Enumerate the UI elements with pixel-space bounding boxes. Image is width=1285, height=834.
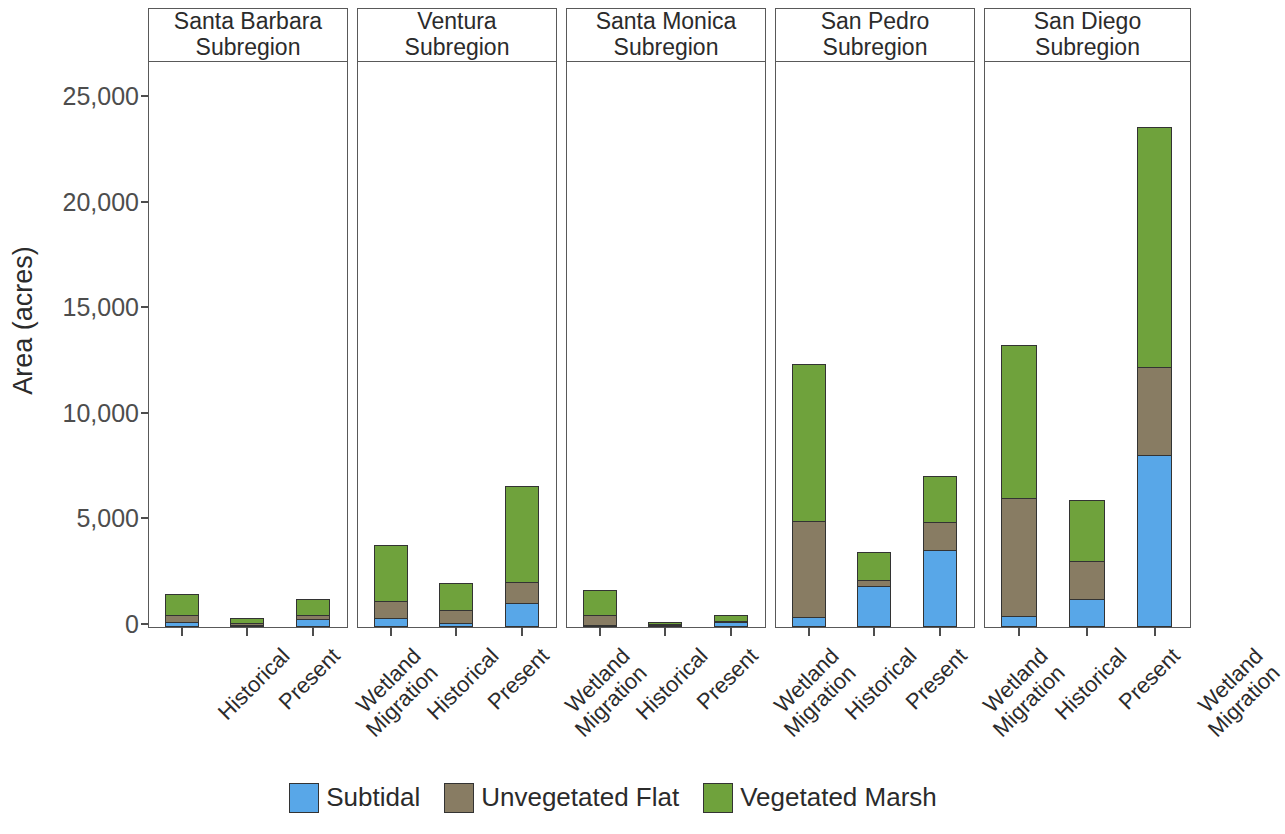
y-axis-tick-mark bbox=[141, 623, 148, 625]
bar-segment bbox=[1137, 367, 1172, 455]
y-axis-tick-mark bbox=[141, 517, 148, 519]
bar-segment bbox=[923, 476, 957, 522]
y-axis-title-text: Area (acres) bbox=[8, 246, 39, 395]
stacked-bar bbox=[374, 545, 408, 627]
bar-segment bbox=[1001, 345, 1036, 498]
facet-panel-title: Santa MonicaSubregion bbox=[566, 8, 766, 62]
legend-color-swatch bbox=[703, 783, 733, 813]
bar-segment bbox=[1069, 599, 1104, 627]
facet-panel: San PedroSubregionHistoricalPresentWetla… bbox=[775, 8, 975, 628]
x-axis-labels: HistoricalPresentWetlandMigration bbox=[776, 627, 974, 767]
y-axis: 05,00010,00015,00020,00025,000 bbox=[46, 0, 148, 700]
bar-segment bbox=[505, 582, 539, 603]
x-axis-tick-label: WetlandMigration bbox=[1187, 644, 1285, 742]
legend-item: Vegetated Marsh bbox=[703, 782, 937, 813]
bar-segment bbox=[165, 615, 199, 622]
legend-item-label: Vegetated Marsh bbox=[740, 782, 937, 813]
y-axis-tick-label: 0 bbox=[125, 610, 139, 639]
bar-segment bbox=[439, 610, 473, 623]
y-axis-tick-label: 20,000 bbox=[63, 187, 139, 216]
y-axis-tick-mark bbox=[141, 412, 148, 414]
legend-item-label: Unvegetated Flat bbox=[481, 782, 679, 813]
facet-plot-area: HistoricalPresentWetlandMigration bbox=[148, 62, 348, 628]
facet-panel-title-text: VenturaSubregion bbox=[405, 9, 510, 61]
legend-color-swatch bbox=[444, 783, 474, 813]
x-axis-labels: HistoricalPresentWetlandMigration bbox=[985, 627, 1190, 767]
facet-plot-area: HistoricalPresentWetlandMigration bbox=[566, 62, 766, 628]
bar-segment bbox=[1137, 455, 1172, 627]
bar-segment bbox=[1001, 616, 1036, 627]
stacked-bar bbox=[923, 476, 957, 627]
bar-segment bbox=[1069, 561, 1104, 599]
bars-container bbox=[985, 62, 1190, 627]
x-axis-tick-label: Historical bbox=[422, 644, 503, 725]
facet-panels: Santa BarbaraSubregionHistoricalPresentW… bbox=[148, 8, 1191, 628]
facet-panel-title-text: Santa MonicaSubregion bbox=[596, 9, 737, 61]
bar-segment bbox=[296, 619, 330, 627]
bar-segment bbox=[505, 486, 539, 582]
facet-panel-title-text: San PedroSubregion bbox=[821, 9, 930, 61]
x-axis-tick-label: Historical bbox=[213, 644, 294, 725]
facet-panel: San DiegoSubregionHistoricalPresentWetla… bbox=[984, 8, 1191, 628]
bar-segment bbox=[792, 521, 826, 617]
bar-segment bbox=[374, 601, 408, 618]
bar-segment bbox=[439, 583, 473, 610]
bar-segment bbox=[1069, 500, 1104, 561]
facet-panel-title: VenturaSubregion bbox=[357, 8, 557, 62]
bar-segment bbox=[165, 594, 199, 615]
facet-panel: Santa MonicaSubregionHistoricalPresentWe… bbox=[566, 8, 766, 628]
facet-panel: VenturaSubregionHistoricalPresentWetland… bbox=[357, 8, 557, 628]
stacked-bar bbox=[714, 615, 748, 627]
facet-panel-title-text: San DiegoSubregion bbox=[1034, 9, 1141, 61]
y-axis-tick-label: 10,000 bbox=[63, 398, 139, 427]
bars-container bbox=[149, 62, 347, 627]
bar-segment bbox=[583, 615, 617, 625]
stacked-bar bbox=[857, 552, 891, 627]
bar-segment bbox=[923, 550, 957, 627]
facet-panel-title: Santa BarbaraSubregion bbox=[148, 8, 348, 62]
stacked-bar bbox=[439, 583, 473, 627]
bar-segment bbox=[374, 618, 408, 627]
x-axis-labels: HistoricalPresentWetlandMigration bbox=[358, 627, 556, 767]
stacked-bar bbox=[1069, 500, 1104, 627]
stacked-bar bbox=[583, 590, 617, 627]
x-axis-labels: HistoricalPresentWetlandMigration bbox=[149, 627, 347, 767]
bar-segment bbox=[923, 522, 957, 550]
bar-segment bbox=[1001, 498, 1036, 616]
legend-item: Unvegetated Flat bbox=[444, 782, 679, 813]
legend-item-label: Subtidal bbox=[326, 782, 420, 813]
stacked-bar bbox=[505, 486, 539, 627]
bar-segment bbox=[1137, 127, 1172, 367]
facet-panel-title-text: Santa BarbaraSubregion bbox=[174, 9, 322, 61]
y-axis-tick-mark bbox=[141, 201, 148, 203]
bars-container bbox=[358, 62, 556, 627]
y-axis-tick-mark bbox=[141, 95, 148, 97]
bar-segment bbox=[857, 586, 891, 627]
x-axis-tick-label: Historical bbox=[631, 644, 712, 725]
facet-plot-area: HistoricalPresentWetlandMigration bbox=[775, 62, 975, 628]
stacked-bar bbox=[230, 618, 264, 627]
bar-segment bbox=[792, 617, 826, 627]
bar-segment bbox=[792, 364, 826, 521]
facet-panel-title: San PedroSubregion bbox=[775, 8, 975, 62]
stacked-bar bbox=[296, 599, 330, 627]
bar-segment bbox=[374, 545, 408, 601]
y-axis-tick-label: 15,000 bbox=[63, 293, 139, 322]
stacked-bar bbox=[165, 594, 199, 627]
bar-segment bbox=[296, 599, 330, 615]
x-axis-labels: HistoricalPresentWetlandMigration bbox=[567, 627, 765, 767]
stacked-bar bbox=[792, 364, 826, 627]
y-axis-tick-mark bbox=[141, 306, 148, 308]
legend-color-swatch bbox=[289, 783, 319, 813]
stacked-bar bbox=[1137, 127, 1172, 627]
facet-plot-area: HistoricalPresentWetlandMigration bbox=[357, 62, 557, 628]
legend-item: Subtidal bbox=[289, 782, 420, 813]
bars-container bbox=[567, 62, 765, 627]
y-axis-tick-label: 5,000 bbox=[76, 504, 139, 533]
chart-legend: SubtidalUnvegetated FlatVegetated Marsh bbox=[0, 782, 1226, 813]
bar-segment bbox=[857, 552, 891, 580]
facet-plot-area: HistoricalPresentWetlandMigration bbox=[984, 62, 1191, 628]
x-axis-tick-label: Historical bbox=[840, 644, 921, 725]
bar-segment bbox=[505, 603, 539, 627]
